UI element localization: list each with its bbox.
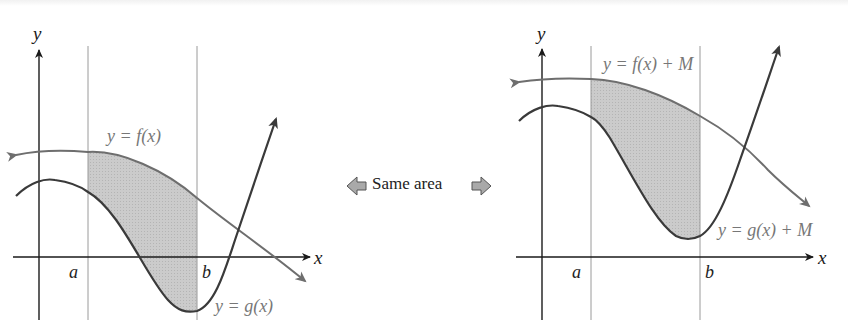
- right-a-label: a: [572, 262, 581, 282]
- left-x-axis-label: x: [313, 247, 323, 268]
- same-area-label: Same area: [372, 174, 442, 194]
- right-g-label: y = g(x) + M: [716, 220, 813, 241]
- right-b-label: b: [705, 262, 714, 282]
- right-x-axis-label: x: [817, 247, 827, 268]
- right-graph: y x a b y = f(x) + M y = g(x) + M: [516, 23, 827, 320]
- left-shaded-area: [88, 152, 197, 312]
- left-a-label: a: [69, 262, 78, 282]
- left-g-label: y = g(x): [213, 296, 273, 317]
- area-between-curves-figure: y x a b y = f(x) y = g(x) y x a b y = f(…: [0, 0, 848, 332]
- right-shaded-area: [591, 79, 700, 239]
- left-y-axis-label: y: [31, 23, 42, 44]
- left-graph: y x a b y = f(x) y = g(x): [13, 23, 323, 320]
- left-f-label: y = f(x): [105, 126, 161, 147]
- right-f-label: y = f(x) + M: [601, 54, 694, 75]
- right-arrow-icon: [472, 177, 491, 195]
- right-y-axis-label: y: [535, 23, 546, 44]
- left-arrow-icon: [347, 177, 366, 195]
- left-b-label: b: [202, 262, 211, 282]
